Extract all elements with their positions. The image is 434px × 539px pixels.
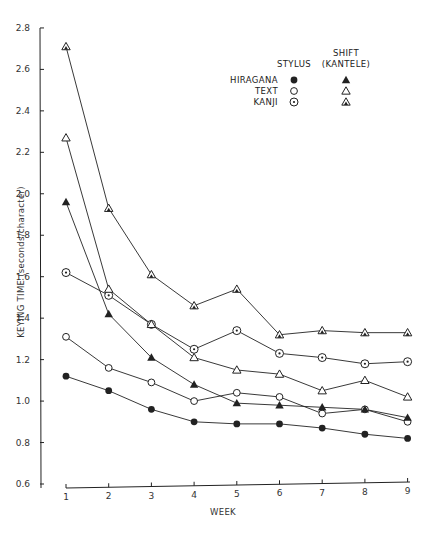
dotted-circle-marker: [290, 98, 298, 106]
x-tick-label: 6: [277, 488, 283, 498]
x-tick-label: 8: [362, 487, 368, 497]
series-line: [66, 202, 408, 418]
filled-circle-marker: [105, 387, 112, 394]
open-circle-marker: [148, 379, 155, 386]
y-tick-label: 1.2: [16, 355, 30, 365]
filled-triangle-marker: [342, 76, 350, 83]
y-tick-label: 1.0: [16, 396, 31, 406]
open-circle-marker: [291, 88, 298, 95]
dotted-triangle-marker: [62, 42, 70, 49]
dotted-triangle-marker: [403, 328, 411, 335]
legend-row-hiragana: HIRAGANA: [230, 75, 278, 85]
dotted-triangle-marker: [190, 302, 198, 309]
legend-row-text: TEXT: [254, 86, 278, 96]
x-axis-line: [66, 482, 410, 488]
filled-triangle-marker: [233, 399, 241, 406]
open-circle-marker: [276, 394, 283, 401]
x-tick-label: 9: [405, 486, 411, 496]
dotted-triangle-marker: [105, 204, 113, 211]
y-tick-label: 0.8: [16, 438, 31, 448]
open-circle-marker: [191, 398, 198, 405]
dotted-triangle-marker: [233, 285, 241, 292]
x-axis-label: WEEK: [210, 507, 236, 517]
x-tick-label: 5: [234, 489, 240, 499]
x-tick-label: 1: [63, 492, 69, 502]
filled-triangle-marker: [62, 198, 70, 205]
legend-row-kanji: KANJI: [253, 97, 278, 107]
dotted-circle-marker: [190, 345, 198, 353]
filled-circle-marker: [291, 77, 298, 84]
x-tick-label: 2: [106, 491, 112, 501]
dotted-triangle-marker: [318, 326, 326, 333]
dotted-circle-marker: [361, 360, 369, 368]
dotted-circle-marker: [318, 354, 326, 362]
x-tick-label: 4: [191, 490, 197, 500]
open-triangle-marker: [342, 87, 350, 94]
filled-triangle-marker: [190, 380, 198, 387]
filled-circle-marker: [63, 373, 70, 380]
filled-circle-marker: [148, 406, 155, 413]
legend-header-kantele: (KANTELE): [322, 59, 371, 69]
series-lines: [66, 47, 408, 439]
dotted-circle-marker: [233, 327, 241, 335]
open-triangle-marker: [105, 285, 113, 292]
open-triangle-marker: [190, 353, 198, 360]
filled-circle-marker: [233, 420, 240, 427]
open-circle-marker: [233, 389, 240, 396]
legend-markers: [290, 76, 350, 106]
filled-circle-marker: [362, 431, 369, 438]
y-tick-label: 2.8: [16, 23, 31, 33]
x-tick-label: 7: [319, 488, 325, 498]
filled-circle-marker: [276, 420, 283, 427]
open-triangle-marker: [361, 376, 369, 383]
keying-time-chart: 0.60.81.01.21.41.61.82.02.22.42.62.81234…: [0, 0, 434, 539]
y-tick-label: 2.6: [16, 64, 31, 74]
x-tick-label: 3: [149, 491, 155, 501]
filled-triangle-marker: [105, 310, 113, 317]
legend-header-shift: SHIFT: [333, 48, 360, 58]
series-line: [66, 376, 408, 438]
filled-circle-marker: [191, 418, 198, 425]
y-axis-line: [40, 28, 41, 488]
y-tick-label: 2.4: [16, 106, 31, 116]
open-triangle-marker: [403, 393, 411, 400]
legend: STYLUS SHIFT (KANTELE) HIRAGANA TEXT KAN…: [230, 48, 370, 107]
dotted-circle-marker: [404, 358, 412, 366]
y-axis-label: KEYING TIME (seconds/character): [16, 186, 26, 338]
filled-circle-marker: [319, 425, 326, 432]
y-tick-label: 0.6: [16, 479, 31, 489]
dotted-circle-marker: [62, 269, 70, 277]
open-triangle-marker: [62, 134, 70, 141]
legend-header-stylus: STYLUS: [277, 59, 311, 69]
dotted-triangle-marker: [342, 98, 350, 105]
y-tick-label: 2.2: [16, 147, 30, 157]
dotted-triangle-marker: [147, 270, 155, 277]
filled-circle-marker: [404, 435, 411, 442]
open-circle-marker: [319, 410, 326, 417]
series-line: [66, 138, 408, 397]
dotted-circle-marker: [276, 349, 284, 357]
open-circle-marker: [63, 333, 70, 340]
open-circle-marker: [105, 365, 112, 372]
axes: 0.60.81.01.21.41.61.82.02.22.42.62.81234…: [16, 23, 411, 502]
